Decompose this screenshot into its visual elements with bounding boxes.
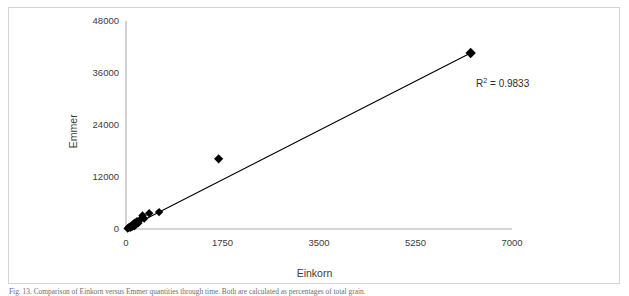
x-axis-title: Einkorn xyxy=(0,268,629,279)
x-tick-label: 5250 xyxy=(405,238,426,248)
r-squared-annotation: R2 = 0.9833 xyxy=(476,79,529,89)
x-tick-label: 0 xyxy=(123,238,128,248)
trendline-path xyxy=(126,53,471,229)
r-squared-exponent: 2 xyxy=(483,76,487,85)
x-tick-label: 3500 xyxy=(308,238,329,248)
r-squared-text: R2 = 0.9833 xyxy=(476,78,529,89)
data-point-marker xyxy=(155,208,163,216)
y-tick-label: 36000 xyxy=(71,68,119,78)
x-tick-label: 7000 xyxy=(501,238,522,248)
figure-caption: Fig. 13. Comparison of Einkorn versus Em… xyxy=(9,288,621,296)
figure-root: 012000240003600048000 01750350052507000 … xyxy=(0,0,629,296)
axis-lines xyxy=(126,21,512,229)
y-tick-label: 0 xyxy=(71,224,119,234)
x-tick-label: 1750 xyxy=(212,238,233,248)
y-axis-title: Emmer xyxy=(68,114,79,148)
data-point-marker xyxy=(214,154,223,163)
chart-frame: 012000240003600048000 01750350052507000 … xyxy=(8,7,620,284)
r-squared-value: 0.9833 xyxy=(499,78,530,89)
y-tick-label: 48000 xyxy=(71,16,119,26)
y-tick-label: 12000 xyxy=(71,172,119,182)
trendline xyxy=(126,53,471,229)
data-point-marker xyxy=(465,48,475,58)
